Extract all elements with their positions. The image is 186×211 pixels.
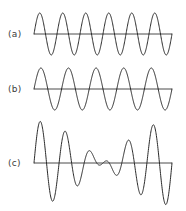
panel-b-plot [0, 60, 186, 115]
waveform-figure: (a) (b) (c) [0, 0, 186, 211]
panel-b: (b) [0, 60, 186, 115]
panel-c-plot [0, 115, 186, 211]
panel-c: (c) [0, 115, 186, 211]
panel-a: (a) [0, 0, 186, 60]
panel-a-plot [0, 0, 186, 60]
